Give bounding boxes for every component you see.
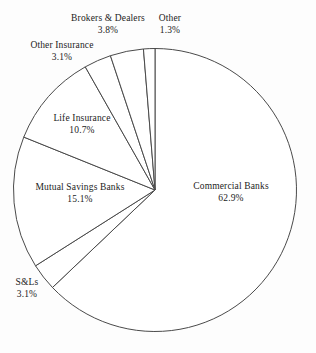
pie-label-commercial-banks-name: Commercial Banks <box>176 181 286 193</box>
pie-label-life-insurance: Life Insurance 10.7% <box>38 113 126 136</box>
pie-label-brokers-and-dealers-value: 3.8% <box>56 25 160 37</box>
pie-label-s-and-ls-name: S&Ls <box>2 277 52 289</box>
pie-label-mutual-savings-banks-value: 15.1% <box>16 194 144 206</box>
leader-other-insurance <box>50 68 62 83</box>
pie-chart-figure: Commercial Banks 62.9% S&Ls 3.1% Mutual … <box>0 0 316 353</box>
pie-label-other-value: 1.3% <box>146 25 194 37</box>
pie-label-life-insurance-value: 10.7% <box>38 125 126 137</box>
pie-label-other-name: Other <box>146 13 194 25</box>
pie-label-brokers-and-dealers-name: Brokers & Dealers <box>56 13 160 25</box>
pie-label-other-insurance-name: Other Insurance <box>14 40 110 52</box>
pie-label-s-and-ls: S&Ls 3.1% <box>2 277 52 300</box>
pie-label-mutual-savings-banks: Mutual Savings Banks 15.1% <box>16 182 144 205</box>
pie-label-s-and-ls-value: 3.1% <box>2 289 52 301</box>
pie-label-other-insurance: Other Insurance 3.1% <box>14 40 110 63</box>
pie-label-other-insurance-value: 3.1% <box>14 52 110 64</box>
pie-label-mutual-savings-banks-name: Mutual Savings Banks <box>16 182 144 194</box>
pie-label-commercial-banks-value: 62.9% <box>176 193 286 205</box>
pie-label-life-insurance-name: Life Insurance <box>38 113 126 125</box>
pie-label-commercial-banks: Commercial Banks 62.9% <box>176 181 286 204</box>
pie-label-other: Other 1.3% <box>146 13 194 36</box>
pie-label-brokers-and-dealers: Brokers & Dealers 3.8% <box>56 13 160 36</box>
